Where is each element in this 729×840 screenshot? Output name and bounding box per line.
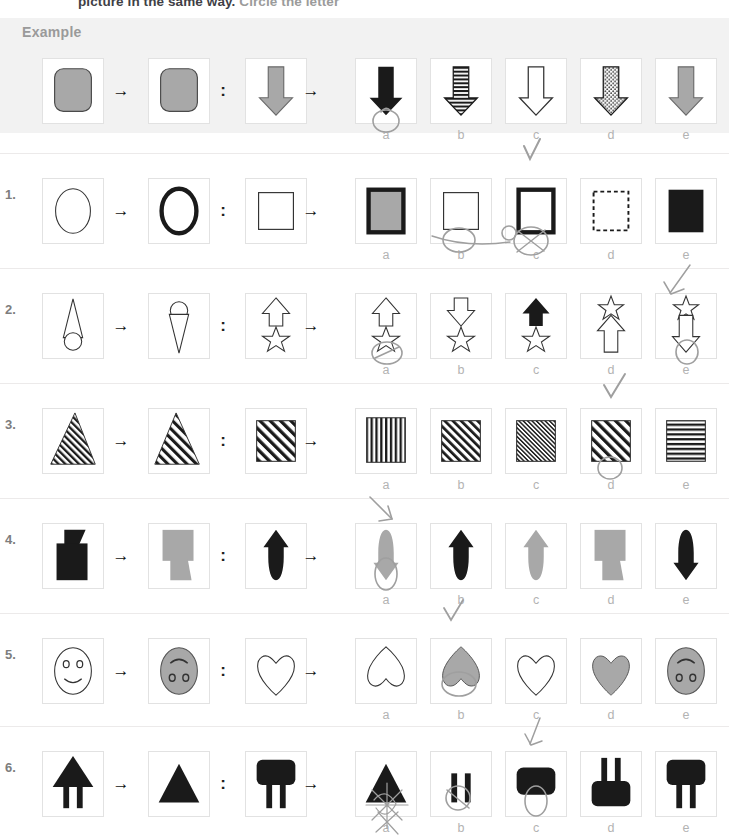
option-label-d[interactable]: d	[580, 363, 642, 377]
option-label-d[interactable]: d	[580, 478, 642, 492]
option-label-c[interactable]: c	[505, 478, 567, 492]
option-label-d[interactable]: d	[580, 593, 642, 607]
option-box-a[interactable]	[355, 293, 417, 359]
option-box-e[interactable]	[655, 638, 717, 704]
option-label-e[interactable]: e	[655, 593, 717, 607]
option-label-d[interactable]: d	[580, 821, 642, 835]
option-box-d[interactable]	[580, 638, 642, 704]
prompt-box-1	[42, 178, 104, 244]
prompt-box-3	[245, 293, 307, 359]
row-number: 6.	[5, 760, 16, 775]
option-label-e[interactable]: e	[655, 821, 717, 835]
option-box-d[interactable]	[580, 751, 642, 817]
option-label-c[interactable]: c	[505, 363, 567, 377]
transform-arrow-2: →	[300, 58, 322, 124]
option-box-d[interactable]	[580, 408, 642, 474]
prompt-box-1	[42, 58, 104, 124]
option-label-b[interactable]: b	[430, 363, 492, 377]
option-box-a[interactable]	[355, 58, 417, 124]
option-box-a[interactable]	[355, 751, 417, 817]
option-box-c[interactable]	[505, 293, 567, 359]
row-divider	[0, 726, 729, 727]
option-label-b[interactable]: b	[430, 593, 492, 607]
option-box-e[interactable]	[655, 408, 717, 474]
option-box-b[interactable]	[430, 638, 492, 704]
transform-arrow-1: →	[110, 178, 132, 244]
option-box-c[interactable]	[505, 638, 567, 704]
analogy-colon: :	[216, 178, 230, 244]
transform-arrow-2: →	[300, 751, 322, 817]
option-box-d[interactable]	[580, 58, 642, 124]
option-box-b[interactable]	[430, 58, 492, 124]
option-box-d[interactable]	[580, 178, 642, 244]
transform-arrow-2: →	[300, 523, 322, 589]
option-label-e[interactable]: e	[655, 708, 717, 722]
row-number: 2.	[5, 302, 16, 317]
option-box-c[interactable]	[505, 178, 567, 244]
option-label-b[interactable]: b	[430, 708, 492, 722]
option-box-e[interactable]	[655, 178, 717, 244]
prompt-box-3	[245, 178, 307, 244]
option-box-a[interactable]	[355, 523, 417, 589]
option-label-e[interactable]: e	[655, 363, 717, 377]
option-label-a[interactable]: a	[355, 478, 417, 492]
transform-arrow-2: →	[300, 408, 322, 474]
option-label-b[interactable]: b	[430, 248, 492, 262]
worksheet-page: picture in the same way. Circle the lett…	[0, 0, 729, 840]
row-divider	[0, 613, 729, 614]
prompt-box-3	[245, 751, 307, 817]
prompt-box-1	[42, 408, 104, 474]
analogy-colon: :	[216, 751, 230, 817]
option-box-c[interactable]	[505, 523, 567, 589]
option-label-d[interactable]: d	[580, 248, 642, 262]
prompt-box-1	[42, 293, 104, 359]
option-label-e[interactable]: e	[655, 478, 717, 492]
option-label-b[interactable]: b	[430, 128, 492, 142]
option-box-b[interactable]	[430, 523, 492, 589]
row-divider	[0, 268, 729, 269]
option-label-a[interactable]: a	[355, 708, 417, 722]
option-box-b[interactable]	[430, 751, 492, 817]
option-box-c[interactable]	[505, 751, 567, 817]
prompt-box-3	[245, 523, 307, 589]
option-label-c[interactable]: c	[505, 128, 567, 142]
prompt-box-2	[148, 293, 210, 359]
transform-arrow-1: →	[110, 408, 132, 474]
option-label-c[interactable]: c	[505, 708, 567, 722]
option-box-c[interactable]	[505, 58, 567, 124]
option-label-e[interactable]: e	[655, 248, 717, 262]
option-box-d[interactable]	[580, 523, 642, 589]
option-box-e[interactable]	[655, 751, 717, 817]
option-label-a[interactable]: a	[355, 128, 417, 142]
prompt-box-1	[42, 523, 104, 589]
question-row: 3.→:→abcde	[0, 383, 729, 498]
option-label-b[interactable]: b	[430, 821, 492, 835]
option-label-d[interactable]: d	[580, 128, 642, 142]
transform-arrow-1: →	[110, 638, 132, 704]
option-label-b[interactable]: b	[430, 478, 492, 492]
option-label-a[interactable]: a	[355, 248, 417, 262]
option-label-d[interactable]: d	[580, 708, 642, 722]
option-label-c[interactable]: c	[505, 248, 567, 262]
analogy-colon: :	[216, 58, 230, 124]
option-label-c[interactable]: c	[505, 593, 567, 607]
row-divider	[0, 153, 729, 154]
option-box-a[interactable]	[355, 178, 417, 244]
option-box-e[interactable]	[655, 523, 717, 589]
option-box-a[interactable]	[355, 408, 417, 474]
option-label-a[interactable]: a	[355, 821, 417, 835]
option-label-e[interactable]: e	[655, 128, 717, 142]
option-box-b[interactable]	[430, 293, 492, 359]
option-box-d[interactable]	[580, 293, 642, 359]
prompt-box-3	[245, 408, 307, 474]
option-label-a[interactable]: a	[355, 363, 417, 377]
option-box-e[interactable]	[655, 58, 717, 124]
example-row: →:→abcde	[0, 18, 729, 133]
option-label-a[interactable]: a	[355, 593, 417, 607]
option-box-a[interactable]	[355, 638, 417, 704]
option-box-c[interactable]	[505, 408, 567, 474]
option-label-c[interactable]: c	[505, 821, 567, 835]
option-box-e[interactable]	[655, 293, 717, 359]
option-box-b[interactable]	[430, 408, 492, 474]
option-box-b[interactable]	[430, 178, 492, 244]
